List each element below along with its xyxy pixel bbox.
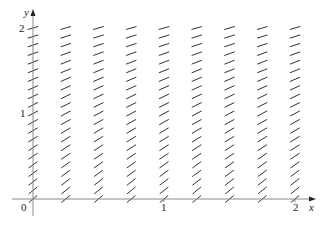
slope-segment	[126, 35, 137, 38]
slope-segment	[94, 187, 103, 194]
slope-segment	[192, 145, 201, 151]
slope-segment	[159, 27, 170, 30]
x-axis-label: x	[309, 202, 314, 213]
slope-segment	[192, 153, 201, 159]
slope-segment	[224, 69, 234, 73]
slope-segment	[257, 86, 267, 91]
slope-segment	[257, 103, 267, 108]
slope-segment	[127, 170, 136, 177]
slope-segment	[192, 170, 201, 177]
slope-segment	[61, 60, 71, 64]
slope-segment	[224, 35, 235, 38]
slope-segment	[258, 170, 267, 177]
slope-segment	[94, 170, 103, 177]
slope-segment	[61, 77, 71, 81]
slope-segment	[225, 119, 235, 124]
slope-segment	[61, 153, 70, 159]
slope-segment	[126, 27, 137, 30]
slope-segment	[126, 43, 137, 46]
slope-segment	[290, 94, 300, 99]
slope-segment	[159, 153, 168, 159]
slope-segment	[257, 94, 267, 99]
slope-segment	[225, 145, 234, 151]
slope-segment	[224, 60, 234, 64]
slope-segment	[290, 145, 299, 151]
slope-segment	[225, 153, 234, 159]
slope-segment	[159, 103, 169, 108]
slope-segment	[257, 35, 268, 38]
slope-segment	[126, 86, 136, 91]
slope-segment	[290, 69, 300, 73]
slope-segment	[291, 179, 300, 186]
slope-segment	[126, 52, 136, 56]
slope-segment	[224, 43, 234, 46]
slope-segment	[192, 77, 202, 81]
slope-segment	[192, 119, 202, 124]
slope-segment	[291, 170, 300, 177]
slope-segment	[93, 27, 104, 30]
slope-segment	[126, 103, 136, 108]
slope-segment	[192, 69, 202, 73]
slope-segment	[94, 119, 104, 124]
slope-segment	[93, 69, 103, 73]
slope-segment	[257, 43, 268, 46]
slope-segment	[258, 128, 268, 134]
y-tick-label-2: 2	[19, 23, 25, 34]
slope-segment	[93, 52, 103, 56]
slope-segment	[159, 145, 168, 151]
slope-segment	[225, 128, 234, 134]
slope-segment	[192, 43, 203, 46]
slope-segment	[192, 162, 201, 168]
slope-segment	[93, 35, 104, 38]
slope-segment	[257, 77, 267, 81]
slope-segment	[225, 187, 234, 194]
slope-segment	[290, 43, 300, 46]
slope-segment	[290, 86, 300, 91]
slope-segment	[126, 94, 136, 99]
slope-segment	[61, 128, 71, 134]
slope-segment	[257, 111, 267, 116]
slope-segment	[61, 111, 71, 116]
slope-segment	[225, 86, 235, 91]
slope-segment	[159, 69, 169, 73]
slope-segment	[225, 162, 234, 168]
slope-segment	[193, 187, 202, 194]
slope-segment	[257, 119, 267, 124]
slope-segment	[290, 103, 300, 108]
slope-segment	[225, 179, 234, 186]
slope-segment	[94, 153, 103, 159]
x-tick-label-2: 2	[293, 202, 299, 213]
slope-segment	[61, 86, 71, 91]
slope-segment	[94, 103, 104, 108]
slope-segment	[290, 136, 299, 142]
slope-segment	[159, 77, 169, 81]
slope-segment	[127, 128, 137, 134]
slope-segment	[290, 119, 300, 124]
slope-segment	[290, 27, 301, 30]
y-axis-arrow-icon	[31, 9, 36, 16]
slope-segment	[94, 145, 103, 151]
slope-segment	[126, 111, 136, 116]
y-tick-label-1: 1	[20, 108, 26, 119]
slope-segment	[94, 162, 103, 168]
slope-segment	[192, 111, 202, 116]
slope-segment	[257, 27, 268, 30]
slope-segment	[127, 153, 136, 159]
slope-segment	[258, 136, 267, 142]
slope-segment	[290, 60, 300, 64]
slope-segment	[61, 162, 70, 168]
slope-segment	[160, 162, 169, 168]
slope-segment	[159, 52, 169, 56]
slope-segment	[159, 94, 169, 99]
origin-label: 0	[21, 202, 27, 213]
slope-segment	[192, 35, 203, 38]
x-tick-label-1: 1	[161, 202, 167, 213]
slope-segment	[258, 162, 267, 168]
slope-segment	[257, 52, 267, 56]
slope-segment	[225, 136, 234, 142]
slope-segment	[126, 69, 136, 73]
slope-segment	[192, 52, 202, 56]
slope-segment	[290, 111, 300, 116]
slope-segment	[159, 128, 168, 134]
slope-segment	[192, 136, 201, 142]
